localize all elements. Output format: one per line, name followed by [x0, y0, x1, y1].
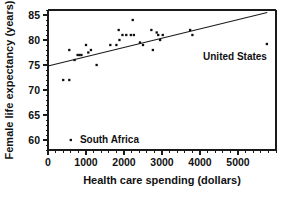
data-point: [162, 34, 164, 36]
data-point: [156, 31, 158, 33]
data-point: [115, 44, 117, 46]
data-point: [118, 29, 120, 31]
y-axis-title: Female life expectancy (years): [3, 0, 15, 159]
data-point: [73, 59, 75, 61]
y-tick-label: 70: [28, 84, 40, 96]
data-point: [85, 44, 87, 46]
data-point: [95, 64, 97, 66]
data-point: [266, 43, 268, 45]
data-point: [191, 34, 193, 36]
data-point: [90, 49, 92, 51]
data-point: [189, 29, 191, 31]
x-tick-label: 0: [45, 156, 51, 168]
x-tick-label: 4000: [188, 156, 212, 168]
y-tick-label: 85: [28, 9, 40, 21]
data-point: [130, 34, 132, 36]
data-point: [68, 49, 70, 51]
data-point: [159, 39, 161, 41]
data-point: [80, 54, 82, 56]
data-point: [139, 41, 141, 43]
data-point: [132, 19, 134, 21]
data-point: [133, 34, 135, 36]
x-axis-tick-labels: 010002000300040005000: [45, 156, 250, 168]
data-point: [70, 139, 72, 141]
y-tick-label: 80: [28, 34, 40, 46]
data-point: [142, 44, 144, 46]
y-tick-label: 60: [28, 134, 40, 146]
x-axis-title: Health care spending (dollars): [83, 174, 241, 186]
plot-frame: [48, 10, 276, 150]
data-point: [68, 79, 70, 81]
data-point: [152, 49, 154, 51]
data-point: [125, 34, 127, 36]
data-point: [87, 51, 89, 53]
data-point: [118, 39, 120, 41]
data-point: [62, 79, 64, 81]
data-point: [157, 34, 159, 36]
annotation-label: South Africa: [80, 134, 140, 145]
x-tick-label: 5000: [226, 156, 250, 168]
annotation-label: United States: [203, 51, 267, 62]
plot-canvas: 010002000300040005000 606570758085 Unite…: [0, 0, 286, 198]
data-point: [121, 34, 123, 36]
y-tick-label: 75: [28, 59, 40, 71]
annotation-labels: United StatesSouth Africa: [80, 51, 267, 145]
x-tick-label: 1000: [74, 156, 98, 168]
data-point: [150, 29, 152, 31]
scatter-plot-figure: 010002000300040005000 606570758085 Unite…: [0, 0, 286, 198]
x-tick-label: 2000: [112, 156, 136, 168]
y-axis-tick-labels: 606570758085: [28, 9, 40, 146]
y-tick-label: 65: [28, 109, 40, 121]
x-tick-label: 3000: [150, 156, 174, 168]
data-point: [109, 44, 111, 46]
